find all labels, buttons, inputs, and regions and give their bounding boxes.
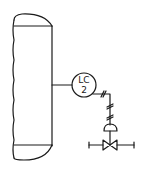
vessel-top-head <box>14 14 52 26</box>
control-valve[interactable] <box>103 124 117 150</box>
instrument-loop-number: 2 <box>81 85 87 95</box>
vessel-bottom-head <box>14 145 52 160</box>
vessel <box>13 14 52 160</box>
vessel-left-wall <box>13 20 14 158</box>
instrument-function-letters: LC <box>78 75 89 85</box>
process-pipe <box>89 142 134 148</box>
pid-diagram: LC 2 <box>0 0 157 172</box>
level-controller-bubble[interactable]: LC 2 <box>72 73 96 97</box>
pneumatic-signal-line <box>93 91 113 125</box>
